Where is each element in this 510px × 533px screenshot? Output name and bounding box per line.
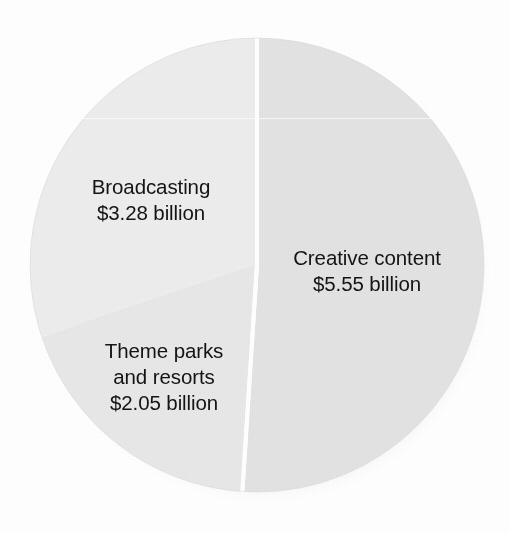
slice-label-theme-parks-value: $2.05 billion	[78, 390, 250, 416]
slice-label-theme-parks-name-line1: Theme parks	[78, 338, 250, 364]
slice-label-creative-content: Creative content $5.55 billion	[262, 245, 472, 297]
slice-label-creative-content-value: $5.55 billion	[262, 271, 472, 297]
slice-label-theme-parks-name-line2: and resorts	[78, 364, 250, 390]
slice-label-broadcasting: Broadcasting $3.28 billion	[56, 174, 246, 226]
slice-label-theme-parks: Theme parks and resorts $2.05 billion	[78, 338, 250, 416]
pie-chart-figure: Broadcasting $3.28 billion Creative cont…	[0, 0, 510, 533]
slice-label-broadcasting-value: $3.28 billion	[56, 200, 246, 226]
slice-label-creative-content-name: Creative content	[262, 245, 472, 271]
slice-label-broadcasting-name: Broadcasting	[56, 174, 246, 200]
